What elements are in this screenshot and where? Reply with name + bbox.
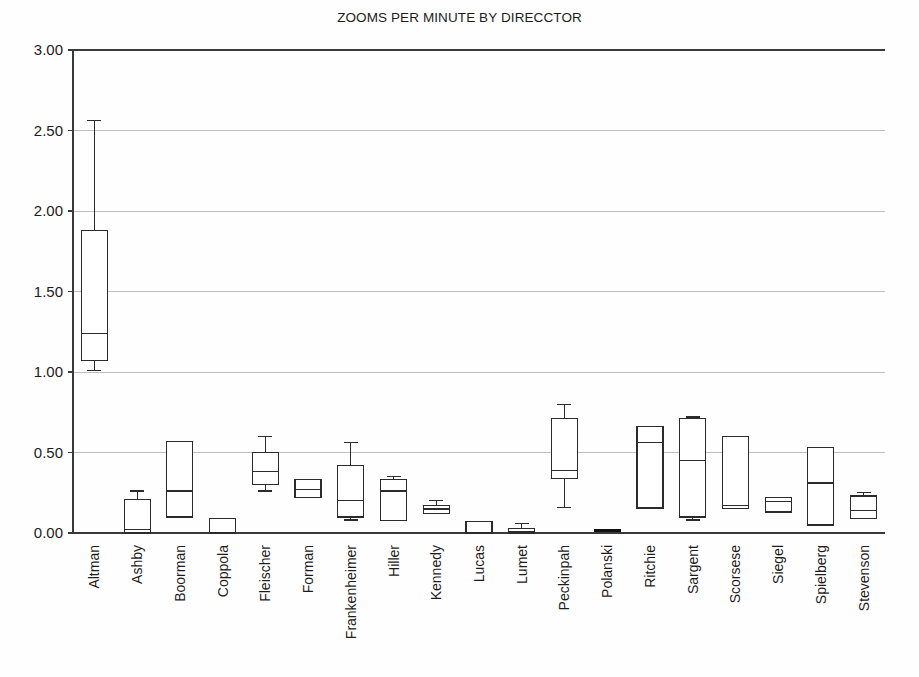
box-plot-item — [423, 501, 449, 514]
x-tick-label-lucas: Lucas — [471, 545, 487, 582]
y-tick-label: 0.50 — [34, 444, 63, 461]
x-axis-tick-labels: AltmanAshbyBoormanCoppolaFleischerForman… — [86, 545, 871, 639]
box-iqr — [722, 436, 748, 508]
box-plot-item — [808, 448, 834, 525]
box-plot-item — [509, 523, 535, 533]
x-tick-label-ashby: Ashby — [129, 545, 145, 584]
chart-container: ZOOMS PER MINUTE BY DIRECCTOR 0.000.501.… — [0, 0, 919, 677]
box-plot-item — [295, 480, 321, 498]
x-tick-label-sargent: Sargent — [685, 545, 701, 594]
box-iqr — [680, 419, 706, 517]
box-iqr — [295, 480, 321, 498]
box-iqr — [594, 530, 620, 532]
box-iqr — [466, 522, 492, 533]
box-iqr — [210, 519, 236, 533]
box-plot-item — [722, 436, 748, 508]
box-plot-item — [124, 491, 150, 533]
x-tick-label-altman: Altman — [86, 545, 102, 589]
box-plot-item — [851, 493, 877, 519]
x-tick-label-scorsese: Scorsese — [727, 545, 743, 604]
x-tick-label-boorman: Boorman — [172, 545, 188, 602]
box-plot-svg: 0.000.501.001.502.002.503.00 AltmanAshby… — [0, 0, 919, 677]
box-iqr — [81, 230, 107, 360]
box-plot-item — [637, 427, 663, 508]
box-iqr — [338, 465, 364, 517]
box-iqr — [765, 498, 791, 512]
box-plot-item — [167, 441, 193, 517]
x-tick-label-siegel: Siegel — [770, 545, 786, 584]
box-iqr — [551, 419, 577, 479]
box-iqr — [124, 499, 150, 533]
y-tick-label: 1.00 — [34, 363, 63, 380]
box-plot-item — [381, 477, 407, 520]
x-tick-label-spielberg: Spielberg — [813, 545, 829, 604]
y-tick-label: 3.00 — [34, 41, 63, 58]
y-axis-tick-labels: 0.000.501.001.502.002.503.00 — [34, 41, 63, 541]
box-iqr — [252, 453, 278, 485]
y-tick-label: 2.00 — [34, 202, 63, 219]
box-plot-series — [81, 121, 876, 533]
box-iqr — [808, 448, 834, 525]
y-tick-label: 1.50 — [34, 283, 63, 300]
box-iqr — [637, 427, 663, 508]
box-plot-item — [338, 443, 364, 520]
box-plot-item — [765, 498, 791, 512]
x-tick-label-hiller: Hiller — [386, 545, 402, 577]
x-tick-label-kennedy: Kennedy — [428, 545, 444, 600]
box-plot-item — [680, 417, 706, 520]
box-plot-item — [252, 436, 278, 491]
box-plot-item — [210, 519, 236, 533]
box-iqr — [381, 480, 407, 520]
x-tick-label-peckinpah: Peckinpah — [556, 545, 572, 610]
box-iqr — [509, 528, 535, 533]
x-tick-label-ritchie: Ritchie — [642, 545, 658, 588]
box-iqr — [423, 506, 449, 514]
box-plot-item — [466, 522, 492, 533]
x-tick-label-fleischer: Fleischer — [257, 545, 273, 602]
y-tick-label: 2.50 — [34, 122, 63, 139]
box-plot-item — [81, 121, 107, 371]
x-tick-label-stevenson: Stevenson — [856, 545, 872, 611]
y-tick-label: 0.00 — [34, 524, 63, 541]
box-iqr — [167, 441, 193, 517]
x-tick-label-frankenheimer: Frankenheimer — [343, 545, 359, 639]
x-tick-label-lumet: Lumet — [514, 545, 530, 584]
x-tick-label-coppola: Coppola — [215, 545, 231, 597]
x-tick-label-polanski: Polanski — [599, 545, 615, 598]
box-plot-item — [551, 404, 577, 507]
box-plot-item — [594, 530, 620, 532]
x-tick-label-forman: Forman — [300, 545, 316, 593]
box-iqr — [851, 496, 877, 519]
